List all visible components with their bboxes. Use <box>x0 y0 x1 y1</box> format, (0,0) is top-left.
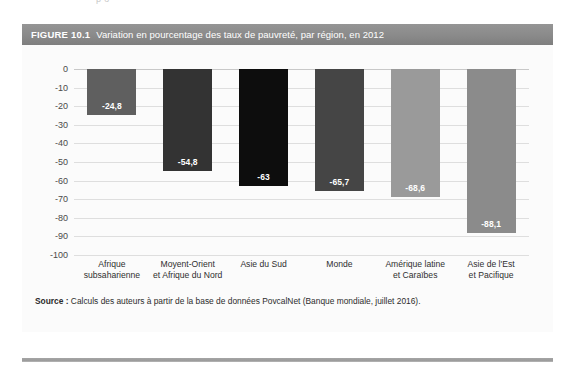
bar-value-label: -68,6 <box>405 183 425 193</box>
bar-value-label: -88,1 <box>481 219 501 229</box>
bar[interactable]: -24,8 <box>87 69 136 115</box>
y-axis-labels: 0-10-20-30-40-50-60-70-80-90-100 <box>22 69 68 255</box>
x-axis-category-label: Monde <box>302 259 378 270</box>
x-axis-category-label: Afriquesubsaharienne <box>74 259 150 280</box>
gridline <box>74 255 529 256</box>
x-axis-label-line: Afrique <box>74 259 150 270</box>
y-axis-tick-label: -50 <box>55 157 68 167</box>
x-axis-label-line: et Caraïbes <box>377 270 453 281</box>
source-note-wrap: Source : Calculs des auteurs à partir de… <box>22 296 553 332</box>
x-axis-category-label: Moyent-Orientet Afrique du Nord <box>150 259 226 280</box>
x-axis-labels: AfriquesubsaharienneMoyent-Orientet Afri… <box>74 259 529 291</box>
x-axis-category-label: Amérique latineet Caraïbes <box>377 259 453 280</box>
bar-series: -24,8-54,8-63-65,7-68,6-88,1 <box>74 69 529 255</box>
bar-value-label: -65,7 <box>329 177 349 187</box>
x-axis-label-line: Monde <box>302 259 378 270</box>
y-axis-tick-label: -10 <box>55 83 68 93</box>
page-bleed-text: p o <box>96 0 416 4</box>
x-axis-label-line: Amérique latine <box>377 259 453 270</box>
figure-panel: FIGURE 10.1 Variation en pourcentage des… <box>22 24 553 332</box>
bar[interactable]: -63 <box>239 69 288 186</box>
figure-number-label: FIGURE 10.1 <box>31 29 90 40</box>
x-axis-label-line: et Pacifique <box>453 270 529 281</box>
x-axis-label-line: Moyent-Orient <box>150 259 226 270</box>
x-axis-label-line: Asie du Sud <box>226 259 302 270</box>
source-note: Source : Calculs des auteurs à partir de… <box>35 296 420 306</box>
y-axis-tick-label: -60 <box>55 176 68 186</box>
chart-area: 0-10-20-30-40-50-60-70-80-90-100 -24,8-5… <box>22 45 553 294</box>
x-axis-category-label: Asie du Sud <box>226 259 302 270</box>
y-axis-tick-label: -30 <box>55 120 68 130</box>
bar-value-label: -24,8 <box>102 101 122 111</box>
x-axis-label-line: subsaharienne <box>74 270 150 281</box>
y-axis-tick-label: -90 <box>55 231 68 241</box>
x-axis-label-line: et Afrique du Nord <box>150 270 226 281</box>
y-axis-tick-label: -40 <box>55 138 68 148</box>
y-axis-tick-label: -20 <box>55 101 68 111</box>
y-axis-tick-label: -100 <box>50 250 68 260</box>
y-axis-tick-label: -70 <box>55 194 68 204</box>
bar[interactable]: -68,6 <box>391 69 440 197</box>
source-text: Calculs des auteurs à partir de la base … <box>69 296 421 306</box>
bar[interactable]: -65,7 <box>315 69 364 191</box>
bar[interactable]: -54,8 <box>163 69 212 171</box>
source-prefix: Source : <box>35 296 69 306</box>
bar-value-label: -54,8 <box>178 157 198 167</box>
y-axis-tick-label: 0 <box>63 64 68 74</box>
plot-area: -24,8-54,8-63-65,7-68,6-88,1 <box>74 69 529 255</box>
bar[interactable]: -88,1 <box>467 69 516 233</box>
x-axis-category-label: Asie de l'Estet Pacifique <box>453 259 529 280</box>
figure-header-bar: FIGURE 10.1 Variation en pourcentage des… <box>22 24 553 45</box>
x-axis-label-line: Asie de l'Est <box>453 259 529 270</box>
bottom-rule <box>22 358 553 362</box>
bar-value-label: -63 <box>257 172 270 182</box>
figure-title: Variation en pourcentage des taux de pau… <box>96 29 384 40</box>
y-axis-tick-label: -80 <box>55 213 68 223</box>
